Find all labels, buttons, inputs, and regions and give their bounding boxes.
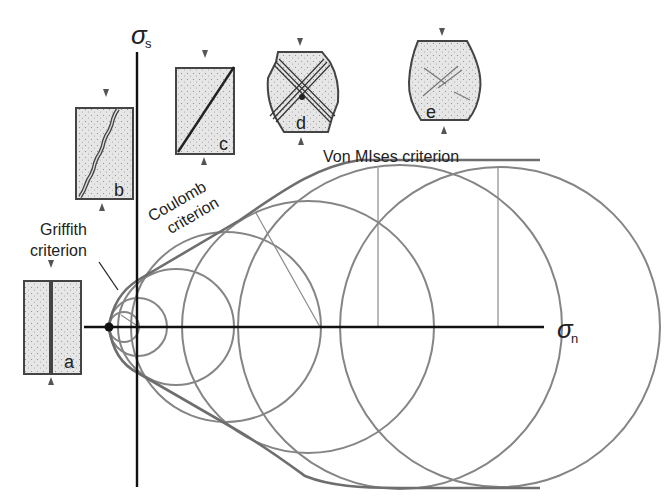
envelope-lower [109, 327, 540, 488]
specimen-a: a [24, 260, 81, 385]
sigma-s-subscript: s [145, 36, 152, 51]
griffith-label-2: criterion [30, 242, 87, 259]
sigma-n-subscript: n [571, 331, 578, 346]
specimen-d-label: d [296, 113, 306, 133]
envelope-upper [109, 160, 540, 327]
specimen-e-label: e [426, 102, 436, 122]
griffith-label-1: Griffith [40, 221, 87, 238]
failure-envelope-diagram: σ s σ n Griffith criterion Coulomb crite… [0, 0, 671, 500]
specimen-d: d [268, 38, 339, 145]
specimen-b: b [76, 89, 133, 211]
von-mises-label: Von MIses criterion [323, 148, 459, 165]
specimen-e: e [409, 28, 481, 134]
specimen-c-label: c [219, 134, 228, 154]
specimen-a-label: a [64, 352, 75, 372]
specimen-b-label: b [114, 180, 124, 200]
griffith-leader-line [99, 262, 118, 290]
origin-tensile-point [105, 323, 114, 332]
coulomb-label: Coulomb criterion [145, 176, 221, 241]
specimen-c: c [176, 50, 234, 165]
